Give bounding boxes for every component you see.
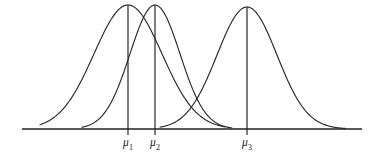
normal-curve-1 (40, 5, 225, 127)
mu-subscript-3: 3 (248, 143, 252, 152)
curve-group (40, 5, 345, 128)
distribution-curves-canvas (0, 0, 384, 159)
mu-symbol-3: μ (242, 136, 248, 148)
normal-curve-2 (82, 5, 232, 128)
mean-tick-group (128, 5, 247, 135)
axis-label-mu1: μ1 (123, 137, 133, 151)
mu-symbol-2: μ (150, 136, 156, 148)
axis-label-mu2: μ2 (150, 137, 160, 151)
mu-subscript-1: 1 (129, 143, 133, 152)
normal-curve-3 (160, 7, 345, 128)
axis-label-mu3: μ3 (242, 137, 252, 151)
mu-subscript-2: 2 (156, 143, 160, 152)
normal-distributions-figure: μ1 μ2 μ3 (0, 0, 384, 159)
mu-symbol-1: μ (123, 136, 129, 148)
